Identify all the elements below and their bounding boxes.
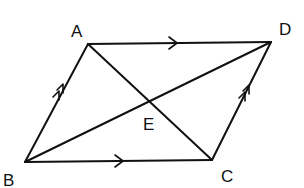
edge-CD bbox=[212, 42, 271, 160]
edge-AD bbox=[88, 42, 271, 44]
double-arrow-marker-CD-icon bbox=[239, 85, 249, 101]
label-E: E bbox=[143, 115, 154, 134]
label-D: D bbox=[279, 20, 291, 39]
diagonal-BD bbox=[25, 42, 271, 162]
parallelogram-diagram: A D B C E bbox=[0, 0, 304, 188]
edge-BC bbox=[25, 160, 212, 162]
label-A: A bbox=[71, 22, 83, 41]
label-B: B bbox=[3, 171, 14, 188]
edge-BA bbox=[25, 44, 88, 162]
label-C: C bbox=[221, 167, 233, 186]
